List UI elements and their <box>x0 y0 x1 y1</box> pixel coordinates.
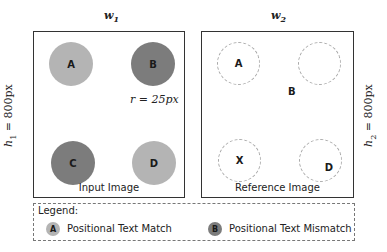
legend-mismatch-label: Positional Text Mismatch <box>229 223 352 234</box>
reference-floating-b: B <box>288 86 296 97</box>
legend-box: Legend: A Positional Text Match B Positi… <box>33 203 355 241</box>
legend-mismatch-swatch: B <box>208 222 222 236</box>
reference-circle-x: X <box>218 139 261 182</box>
reference-circle-a: A <box>217 42 260 85</box>
input-height-label: h1 = 800px <box>2 76 17 156</box>
reference-circle-empty <box>298 42 341 85</box>
input-circle-d: D <box>132 141 176 185</box>
input-width-label: w1 <box>104 9 119 24</box>
reference-image-panel: A B X D Reference Image <box>201 31 354 198</box>
input-circle-a: A <box>49 42 93 86</box>
reference-circle-d: D <box>299 139 342 182</box>
legend-title: Legend: <box>38 205 78 216</box>
legend-match-label: Positional Text Match <box>67 223 172 234</box>
reference-image-caption: Reference Image <box>202 182 353 193</box>
reference-height-label: h2 = 800px <box>362 76 377 156</box>
input-circle-c: C <box>51 141 95 185</box>
input-image-panel: A B r = 25px C D Input Image <box>33 31 185 198</box>
legend-match-swatch: A <box>46 222 60 236</box>
reference-width-label: w2 <box>271 9 286 24</box>
radius-label: r = 25px <box>130 93 179 106</box>
input-circle-b: B <box>131 42 175 86</box>
input-image-caption: Input Image <box>34 182 184 193</box>
